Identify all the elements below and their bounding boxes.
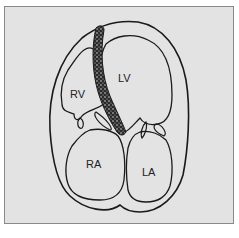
label-ra: RA	[86, 158, 102, 170]
mitral-leaflet-right	[154, 124, 165, 136]
tricuspid-leaflet-left	[78, 118, 83, 128]
label-lv: LV	[118, 72, 131, 84]
label-la: LA	[142, 166, 156, 178]
mitral-leaflet-left	[141, 122, 146, 138]
heart-diagram: RV LV RA LA	[0, 0, 239, 238]
label-rv: RV	[70, 88, 86, 100]
